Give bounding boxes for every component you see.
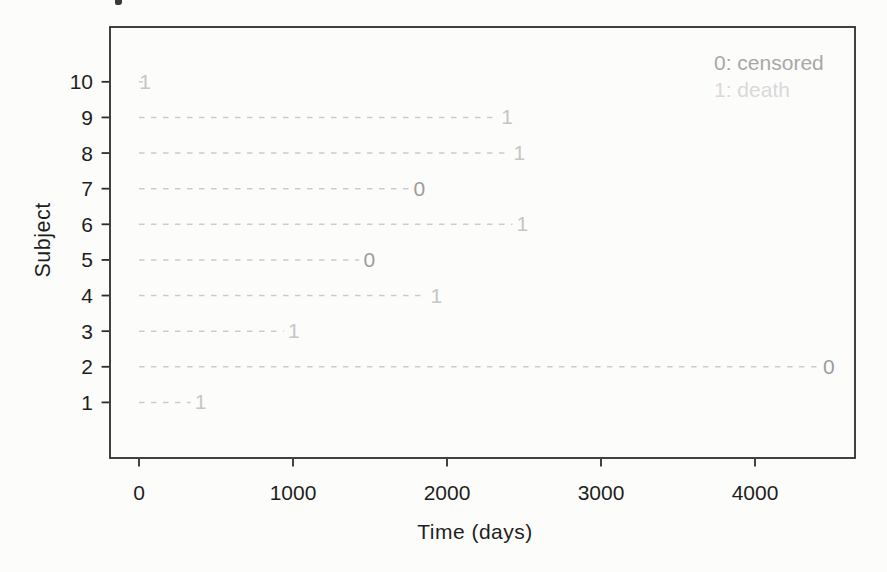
death-marker: 1 xyxy=(139,70,151,93)
y-axis-label: Subject xyxy=(31,170,57,310)
legend-death: 1: death xyxy=(714,76,824,103)
death-marker: 1 xyxy=(514,141,526,164)
y-tick-label: 1 xyxy=(81,391,93,414)
y-tick-label: 5 xyxy=(81,248,93,271)
x-tick-label: 1000 xyxy=(270,481,317,504)
death-marker: 1 xyxy=(517,212,529,235)
survival-figure: 01000200030004000123456789101011010111 S… xyxy=(0,0,887,572)
y-tick-label: 2 xyxy=(81,355,93,378)
legend: 0: censored 1: death xyxy=(714,49,824,103)
death-marker: 1 xyxy=(430,284,442,307)
x-axis-label: Time (days) xyxy=(325,520,625,544)
y-tick-label: 8 xyxy=(81,142,93,165)
x-tick-label: 2000 xyxy=(424,481,471,504)
x-tick-label: 3000 xyxy=(578,481,625,504)
x-tick-label: 0 xyxy=(133,481,145,504)
death-marker: 1 xyxy=(195,390,207,413)
y-tick-label: 7 xyxy=(81,177,93,200)
death-marker: 1 xyxy=(501,105,513,128)
y-tick-label: 3 xyxy=(81,320,93,343)
x-tick-label: 4000 xyxy=(732,481,779,504)
y-tick-label: 10 xyxy=(70,70,93,93)
y-tick-label: 6 xyxy=(81,213,93,236)
death-marker: 1 xyxy=(288,319,300,342)
y-tick-label: 9 xyxy=(81,106,93,129)
censored-marker: 0 xyxy=(823,355,835,378)
censored-marker: 0 xyxy=(363,248,375,271)
censored-marker: 0 xyxy=(413,177,425,200)
y-tick-label: 4 xyxy=(81,284,93,307)
legend-censored: 0: censored xyxy=(714,49,824,76)
